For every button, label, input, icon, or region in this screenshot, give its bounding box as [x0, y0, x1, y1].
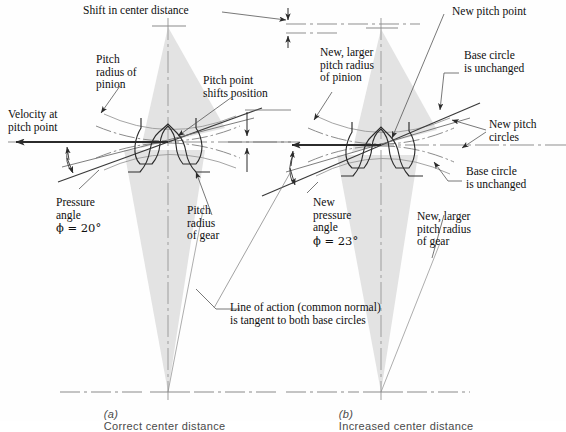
label-base-circle-is-unchanged-top: Base circle is unchanged: [464, 49, 524, 74]
caption-panel-b: (b) Increased center distance: [332, 396, 474, 432]
leader-new-pitch-circles-lower: [462, 132, 486, 148]
leader-new-pressure-angle: [307, 182, 318, 193]
gear-sector-a: [124, 150, 205, 392]
leader-new-pitch-circles-upper: [452, 120, 486, 130]
caption-a-letter: (a): [104, 408, 119, 420]
label-new-pressure-angle-value: ϕ = 23°: [313, 235, 358, 248]
label-pressure-angle-value: ϕ = 20°: [56, 222, 101, 235]
caption-panel-a: (a) Correct center distance: [97, 396, 226, 432]
leader-new-pitch-radius-pinion: [314, 92, 332, 120]
label-new-larger-pitch-radius-of-pinion: New, larger pitch radius of pinion: [320, 46, 374, 84]
label-new-pressure-angle: New pressure angle: [313, 196, 351, 234]
label-pressure-angle: Pressure angle: [56, 196, 95, 221]
panel-a-graphics: [8, 12, 300, 400]
label-new-pitch-circles: New pitch circles: [489, 118, 537, 143]
leader-shift-center-distance: [222, 12, 286, 20]
label-pitch-radius-of-pinion: Pitch radius of pinion: [96, 53, 137, 91]
leader-base-circle-bottom: [434, 162, 462, 181]
label-shift-in-center-distance: Shift in center distance: [83, 4, 189, 17]
caption-b-text: Increased center distance: [339, 420, 474, 432]
gear-sector-b: [337, 155, 418, 392]
label-new-larger-pitch-radius-of-gear: New, larger pitch radius of gear: [417, 210, 471, 248]
pitch-shift-dimension-a: [228, 110, 291, 172]
label-base-circle-is-unchanged-bottom: Base circle is unchanged: [466, 165, 526, 190]
label-line-of-action: Line of action (common normal) is tangen…: [230, 301, 381, 326]
caption-b-letter: (b): [339, 408, 354, 420]
label-pitch-radius-of-gear: Pitch radius of gear: [187, 204, 219, 242]
leader-base-circle-top: [440, 73, 459, 110]
caption-a-text: Correct center distance: [104, 420, 226, 432]
label-new-pitch-point: New pitch point: [452, 5, 526, 18]
leader-line-of-action-long: [214, 173, 290, 308]
label-pitch-point-shifts-position: Pitch point shifts position: [203, 74, 268, 99]
label-velocity-at-pitch-point: Velocity at pitch point: [8, 108, 58, 133]
